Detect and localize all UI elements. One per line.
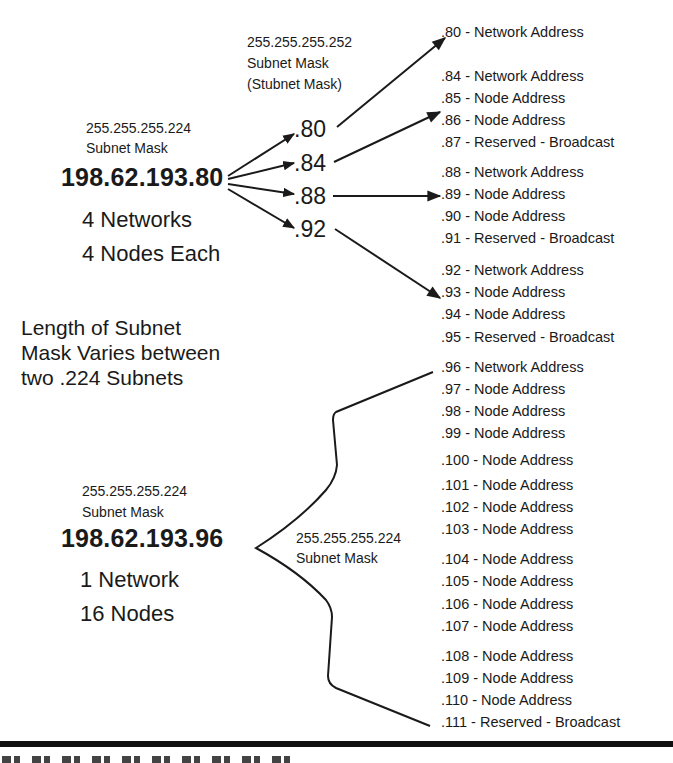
arrow-to-80: [228, 134, 294, 176]
address-entry: .80 - Network Address: [441, 23, 584, 41]
address-entry: .91 - Reserved - Broadcast: [441, 229, 614, 247]
stubnet-mask-value: 255.255.255.252: [247, 33, 352, 52]
address-entry: .92 - Network Address: [441, 261, 584, 279]
brace-mask-label: Subnet Mask: [296, 549, 378, 568]
address-entry: .95 - Reserved - Broadcast: [441, 328, 614, 346]
arrow-to-92: [228, 189, 294, 228]
address-entry: .110 - Node Address: [441, 691, 572, 709]
address-entry: .85 - Node Address: [441, 89, 565, 107]
arrow-to-84: [228, 163, 294, 179]
address-entry: .106 - Node Address: [441, 595, 573, 613]
octet-88: .88: [294, 184, 326, 208]
address-entry: .87 - Reserved - Broadcast: [441, 133, 614, 151]
address-entry: .103 - Node Address: [441, 520, 573, 538]
clipped-caption-glyphs: [2, 756, 302, 763]
note-line-3: two .224 Subnets: [21, 366, 183, 390]
top-mask-value: 255.255.255.224: [86, 119, 191, 138]
address-entry: .100 - Node Address: [441, 451, 573, 469]
bottom-node-count: 16 Nodes: [80, 600, 174, 628]
address-entry: .90 - Node Address: [441, 207, 565, 225]
octet-80: .80: [294, 117, 326, 141]
arrow-84-to-block: [334, 112, 440, 162]
address-entry: .101 - Node Address: [441, 476, 573, 494]
address-entry: .111 - Reserved - Broadcast: [441, 713, 620, 731]
address-entry: .94 - Node Address: [441, 305, 565, 323]
bottom-mask-label: Subnet Mask: [82, 503, 164, 522]
bottom-ip-address: 198.62.193.96: [61, 524, 223, 552]
stubnet-mask-alias: (Stubnet Mask): [247, 75, 342, 94]
section-divider-rule: [0, 741, 673, 747]
arrow-92-to-block: [335, 229, 440, 298]
address-entry: .102 - Node Address: [441, 498, 573, 516]
arrow-80-to-block: [337, 38, 445, 127]
note-line-2: Mask Varies between: [21, 341, 220, 365]
address-entry: .108 - Node Address: [441, 647, 573, 665]
address-entry: .89 - Node Address: [441, 185, 565, 203]
note-line-1: Length of Subnet: [21, 316, 181, 340]
brace-mask-value: 255.255.255.224: [296, 529, 401, 548]
bottom-mask-value: 255.255.255.224: [82, 482, 187, 501]
address-entry: .109 - Node Address: [441, 669, 573, 687]
top-mask-label: Subnet Mask: [86, 139, 168, 158]
top-ip-address: 198.62.193.80: [61, 163, 223, 191]
octet-84: .84: [294, 151, 326, 175]
arrow-to-88: [228, 184, 294, 194]
top-network-count: 4 Networks: [82, 206, 192, 234]
address-entry: .99 - Node Address: [441, 424, 565, 442]
address-entry: .84 - Network Address: [441, 67, 584, 85]
address-entry: .104 - Node Address: [441, 550, 573, 568]
address-entry: .107 - Node Address: [441, 617, 573, 635]
address-entry: .96 - Network Address: [441, 358, 584, 376]
octet-92: .92: [294, 217, 326, 241]
address-entry: .98 - Node Address: [441, 402, 565, 420]
clipped-caption: [0, 756, 673, 763]
address-entry: .86 - Node Address: [441, 111, 565, 129]
stubnet-mask-label: Subnet Mask: [247, 54, 329, 73]
address-entry: .97 - Node Address: [441, 380, 565, 398]
bottom-network-count: 1 Network: [80, 566, 179, 594]
address-entry: .93 - Node Address: [441, 283, 565, 301]
address-entry: .88 - Network Address: [441, 163, 584, 181]
top-node-count: 4 Nodes Each: [82, 240, 220, 268]
address-entry: .105 - Node Address: [441, 572, 573, 590]
